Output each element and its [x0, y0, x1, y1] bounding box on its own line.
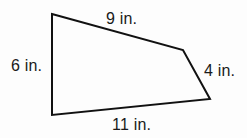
geometry-diagram: 9 in. 4 in. 11 in. 6 in.: [0, 0, 247, 138]
side-label-left: 6 in.: [11, 58, 42, 74]
side-label-right: 4 in.: [204, 63, 235, 79]
side-label-top: 9 in.: [106, 11, 137, 27]
quadrilateral-outline: [52, 14, 210, 115]
side-label-bottom: 11 in.: [112, 117, 151, 133]
